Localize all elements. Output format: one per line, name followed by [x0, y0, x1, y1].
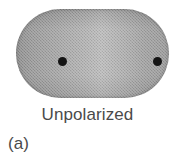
slab-body	[16, 9, 169, 98]
right-marker-dot	[153, 57, 162, 66]
polarizing-slab	[16, 9, 169, 98]
panel-label: (a)	[8, 133, 29, 155]
figure-panel-a: Unpolarized (a)	[0, 0, 175, 166]
left-marker-dot	[58, 57, 67, 66]
figure-caption: Unpolarized	[0, 104, 175, 126]
